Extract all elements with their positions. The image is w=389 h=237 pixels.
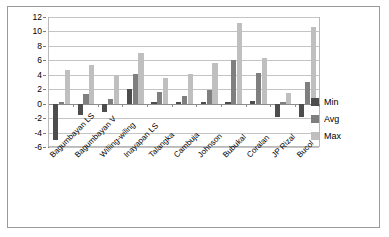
y-axis-tick-label: -2 <box>34 114 42 122</box>
y-axis-tick-mark <box>43 46 46 47</box>
bars-layer <box>49 17 320 147</box>
chart-legend: MinAvgMax <box>311 93 367 144</box>
bar-max <box>163 78 168 103</box>
y-axis-tick-label: 4 <box>37 71 42 79</box>
bar-avg <box>231 60 236 103</box>
bar-min <box>275 104 280 118</box>
bar-group <box>172 17 197 147</box>
bar-min <box>53 104 58 140</box>
bar-max <box>286 93 291 104</box>
y-axis-tick-label: 10 <box>33 27 42 35</box>
y-axis-tick-label: 8 <box>37 42 42 50</box>
y-axis-tick-mark <box>43 17 46 18</box>
bar-avg <box>256 73 261 104</box>
bar-avg <box>108 99 113 104</box>
y-axis-tick-mark <box>43 118 46 119</box>
bar-group <box>197 17 222 147</box>
bar-avg <box>133 74 138 104</box>
bar-avg <box>83 94 88 103</box>
legend-swatch-icon <box>311 115 319 123</box>
y-axis-tick-mark <box>43 147 46 148</box>
legend-swatch-icon <box>311 98 319 106</box>
legend-label: Max <box>324 131 341 141</box>
chart-frame: -6-4-2024681012 Bagumbayan LSBagumbayan … <box>7 6 380 228</box>
y-axis-tick-mark <box>43 104 46 105</box>
bar-min <box>78 104 83 116</box>
bar-avg <box>305 82 310 104</box>
bar-max <box>138 53 143 104</box>
bar-group <box>49 17 74 147</box>
bar-max <box>65 70 70 104</box>
y-axis-tick-mark <box>43 133 46 134</box>
bar-group <box>271 17 296 147</box>
legend-item: Min <box>311 93 367 110</box>
bar-max <box>237 23 242 104</box>
legend-item: Avg <box>311 110 367 127</box>
bar-max <box>188 74 193 104</box>
bar-min <box>127 89 132 103</box>
bar-min <box>176 102 181 103</box>
bar-min <box>151 102 156 104</box>
y-axis-tick-label: 2 <box>37 85 42 93</box>
bar-max <box>114 75 119 104</box>
y-axis-tick-label: -4 <box>34 129 42 137</box>
bar-max <box>89 65 94 103</box>
bar-max <box>262 58 267 104</box>
bar-group <box>246 17 271 147</box>
y-axis-tick-label: 12 <box>33 13 42 21</box>
bar-max <box>212 63 217 103</box>
y-axis-tick-mark <box>43 60 46 61</box>
y-axis-tick-mark <box>43 31 46 32</box>
bar-avg <box>207 90 212 104</box>
y-axis: -6-4-2024681012 <box>14 17 46 147</box>
y-axis-tick-label: 0 <box>37 100 42 108</box>
y-axis-tick-label: -6 <box>34 143 42 151</box>
legend-swatch-icon <box>311 132 319 140</box>
bar-min <box>201 102 206 104</box>
bar-group <box>221 17 246 147</box>
bar-min <box>250 101 255 104</box>
legend-label: Avg <box>324 114 339 124</box>
y-axis-tick-mark <box>43 89 46 90</box>
bar-avg <box>280 102 285 104</box>
bar-avg <box>157 92 162 104</box>
bar-avg <box>182 96 187 103</box>
legend-item: Max <box>311 127 367 144</box>
y-axis-tick-mark <box>43 75 46 76</box>
legend-label: Min <box>324 97 339 107</box>
y-axis-tick-label: 6 <box>37 56 42 64</box>
bar-min <box>225 102 230 104</box>
bar-min <box>299 104 304 117</box>
x-axis-category-labels: Bagumbayan LSBagumbayan VWiliing-wilingI… <box>42 153 372 233</box>
bar-min <box>102 104 107 113</box>
bar-avg <box>59 102 64 104</box>
